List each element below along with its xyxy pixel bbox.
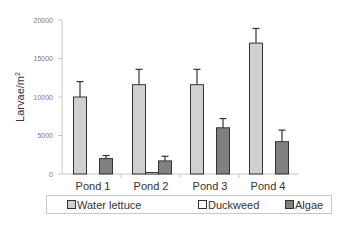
legend-swatch-duckweed: [199, 201, 207, 209]
y-ticks: 20000 15000 10000 5000 0: [34, 17, 62, 178]
bar-algae: [276, 142, 289, 174]
bar-water-lettuce: [133, 85, 146, 174]
y-tick-label: 15000: [34, 55, 54, 62]
x-category-label: Pond 4: [251, 180, 286, 192]
y-tick-label: 0: [49, 171, 53, 178]
x-category-label: Pond 3: [193, 180, 228, 192]
legend-label-water-lettuce: Water lettuce: [77, 199, 141, 211]
legend: Water lettuce Duckweed Algae: [47, 196, 332, 214]
bar-water-lettuce: [191, 85, 204, 174]
bar-chart: 20000 15000 10000 5000 0 Larvae/m2 Pond …: [0, 0, 349, 226]
bar-duckweed: [146, 172, 159, 174]
legend-swatch-algae: [286, 201, 294, 209]
bar-water-lettuce: [250, 43, 263, 174]
bar-water-lettuce: [74, 97, 87, 174]
x-category-label: Pond 2: [134, 180, 169, 192]
y-tick-label: 5000: [37, 132, 53, 139]
y-axis-title: Larvae/m2: [14, 72, 26, 122]
bar-algae: [100, 159, 113, 174]
legend-swatch-water-lettuce: [68, 201, 76, 209]
x-ticks: [121, 174, 239, 178]
x-category-label: Pond 1: [76, 180, 111, 192]
y-tick-label: 20000: [34, 17, 54, 24]
bars-group: [74, 28, 289, 174]
legend-label-algae: Algae: [295, 199, 323, 211]
legend-label-duckweed: Duckweed: [208, 199, 259, 211]
bar-algae: [217, 128, 230, 174]
bar-algae: [159, 161, 172, 174]
y-tick-label: 10000: [34, 94, 54, 101]
